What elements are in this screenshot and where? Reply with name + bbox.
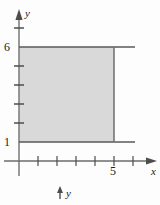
x-axis-label: x [151, 166, 156, 177]
x-axis-arrow-icon [146, 157, 157, 164]
y-tick-label-1: 1 [4, 136, 10, 148]
shaded-region [19, 47, 114, 142]
graph-figure: y x y 6 1 5 [0, 0, 160, 205]
y-axis-arrow-icon [15, 9, 22, 20]
plot-canvas [0, 0, 160, 205]
y-tick-label-6: 6 [4, 41, 10, 53]
x-tick-label-5: 5 [110, 165, 116, 177]
stray-arrow-icon [57, 186, 63, 199]
stray-y-label: y [66, 188, 71, 199]
y-axis-label: y [25, 8, 30, 19]
